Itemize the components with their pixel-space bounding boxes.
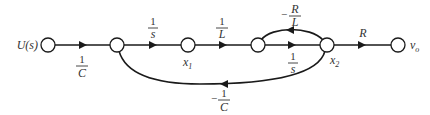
gain-u-to-n1: 1 C: [76, 53, 88, 80]
arrow-u-to-n1: [79, 41, 87, 49]
gain-numerator: 1: [79, 53, 85, 65]
gain-numerator: R: [290, 2, 299, 16]
node-label-u: U(s): [17, 38, 38, 52]
gain-sign: −: [281, 8, 287, 20]
gain-x2-to-vo: R: [358, 26, 367, 40]
gain-x2-to-n1: − 1 C: [211, 87, 230, 114]
gain-numerator: 1: [150, 15, 156, 27]
gain-denominator: L: [218, 27, 226, 41]
gain-x2-to-n3: − R L: [281, 2, 301, 29]
node-u: [41, 38, 55, 52]
gain-numerator: 1: [219, 15, 225, 27]
signal-flow-graph: U(s) x1 x2 vo 1 C 1 s 1 L 1 s − R L − 1 …: [0, 0, 430, 115]
node-label-vo: vo: [410, 38, 419, 54]
arrow-x2-to-vo: [358, 41, 366, 49]
node-label-x2: x2: [329, 53, 339, 69]
node-vo: [391, 38, 405, 52]
gain-denominator: C: [78, 66, 87, 80]
node-x2: [320, 38, 334, 52]
node-n3: [251, 38, 265, 52]
node-label-x1: x1: [182, 55, 192, 71]
gain-sign: −: [211, 92, 217, 104]
arrow-n3-to-x2: [288, 41, 296, 49]
gain-n1-to-x1: 1 s: [148, 15, 158, 41]
gain-n3-to-x2: 1 s: [288, 50, 298, 76]
gain-denominator: s: [291, 62, 296, 76]
gain-denominator: s: [151, 27, 156, 41]
arrow-n1-to-x1: [149, 41, 157, 49]
arrow-x1-to-n3: [219, 41, 227, 49]
gain-denominator: C: [220, 100, 229, 114]
gain-numerator: 1: [290, 50, 296, 62]
node-x1: [181, 38, 195, 52]
node-n1: [110, 38, 124, 52]
gain-denominator: L: [291, 15, 299, 29]
gain-numerator: 1: [221, 87, 227, 99]
gain-x1-to-n3: 1 L: [216, 15, 228, 41]
